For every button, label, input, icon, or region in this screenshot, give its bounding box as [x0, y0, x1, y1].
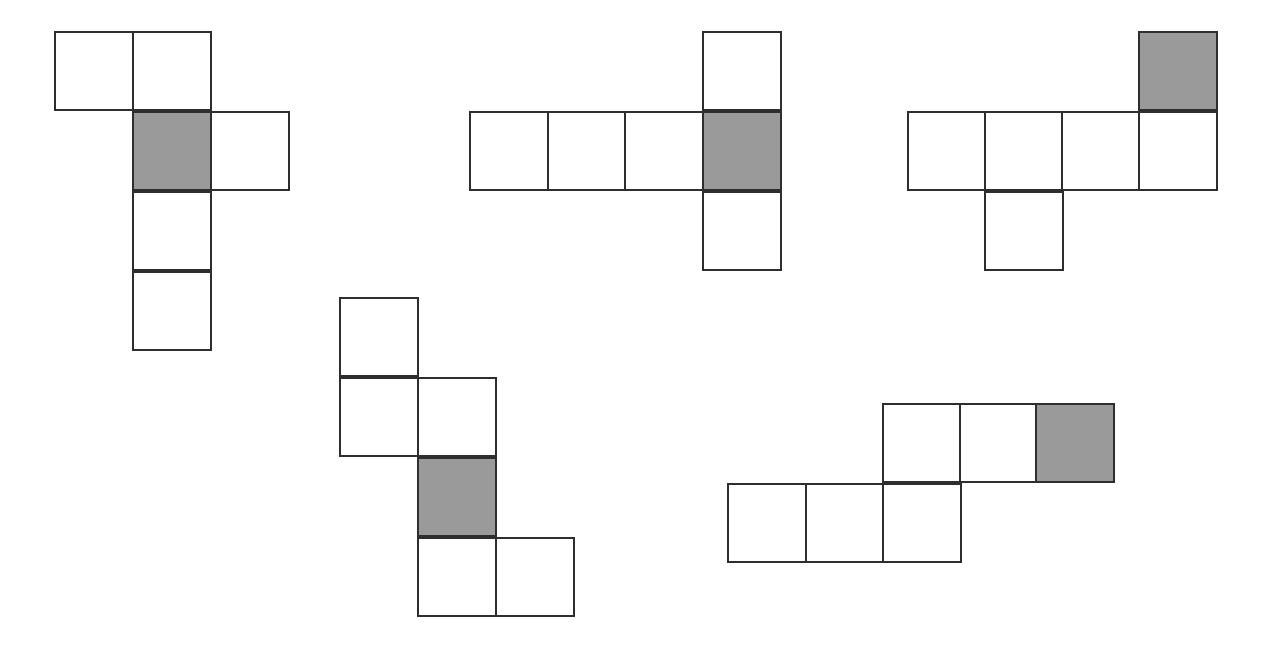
face — [959, 403, 1039, 483]
face — [882, 483, 962, 563]
cube-nets-diagram — [0, 0, 1264, 653]
shaded-face — [1035, 403, 1115, 483]
face — [727, 483, 807, 563]
face — [882, 403, 962, 483]
net-5 — [0, 0, 1264, 653]
face — [805, 483, 885, 563]
